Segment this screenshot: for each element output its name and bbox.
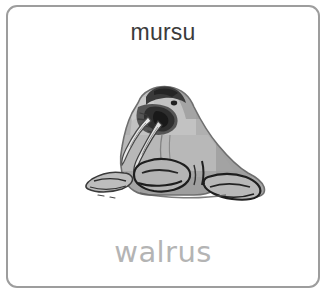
vocabulary-flashcard: mursu [6,5,320,288]
walrus-front-flipper [134,159,190,192]
walrus-left-flipper [86,172,133,198]
source-word-label: mursu [8,19,318,45]
walrus-icon [76,77,276,222]
walrus-eye [171,101,177,106]
walrus-illustration [76,77,276,222]
translated-word-label: walrus [8,235,318,269]
